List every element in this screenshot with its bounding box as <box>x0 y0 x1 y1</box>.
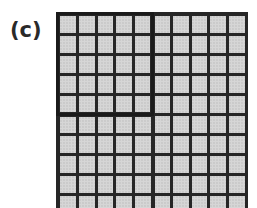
grid-cell <box>98 156 114 173</box>
grid-cell <box>155 16 170 33</box>
grid-cell <box>116 96 132 112</box>
grid-cell <box>135 96 150 112</box>
grid-cell <box>210 36 226 53</box>
grid-cell <box>116 36 132 53</box>
grid-cell <box>60 136 76 153</box>
grid-cell <box>60 117 76 133</box>
grid-cell <box>135 16 150 33</box>
grid-cell <box>229 16 245 33</box>
grid-cell <box>210 116 226 133</box>
grid-cell <box>192 76 208 93</box>
grid-cell <box>229 196 245 208</box>
grid-cell <box>98 36 114 53</box>
grid-cell <box>173 16 189 33</box>
grid-cell <box>192 196 208 208</box>
grid-cell <box>155 56 170 73</box>
grid-cell <box>155 156 170 173</box>
grid-cell <box>173 136 189 153</box>
grid-cell <box>210 156 226 173</box>
grid-cell <box>116 76 132 93</box>
grid-cell <box>155 136 170 153</box>
grid-cell <box>229 56 245 73</box>
grid-cell <box>79 196 95 208</box>
grid-cell <box>229 136 245 153</box>
grid-cell <box>79 117 95 133</box>
grid-cell <box>98 176 114 193</box>
grid-cell <box>79 156 95 173</box>
grid-cell <box>229 176 245 193</box>
grid-cell <box>192 96 208 113</box>
grid-cell <box>229 96 245 113</box>
grid-cell <box>60 176 76 193</box>
grid-cell <box>229 116 245 133</box>
grid-cell <box>79 16 95 33</box>
grid-cell <box>173 36 189 53</box>
grid-cell <box>135 196 151 208</box>
grid-cell <box>98 136 114 153</box>
grid-cell <box>210 96 226 113</box>
grid-cell <box>155 196 170 208</box>
grid-cell <box>98 196 114 208</box>
grid-cell <box>98 96 114 112</box>
grid-cell <box>210 56 226 73</box>
grid-cell <box>116 56 132 73</box>
grid-cell <box>192 56 208 73</box>
grid-cell <box>60 156 76 173</box>
grid-cell <box>135 117 151 133</box>
grid-cell <box>98 56 114 73</box>
grid-cell <box>173 196 189 208</box>
grid-cell <box>60 96 76 112</box>
grid-cell <box>135 136 151 153</box>
grid-cell <box>173 176 189 193</box>
grid-cell <box>155 36 170 53</box>
grid-cell <box>135 56 150 73</box>
grid-cell <box>192 116 208 133</box>
grid-cell <box>116 16 132 33</box>
grid-cell <box>155 76 170 93</box>
grid-cell <box>229 156 245 173</box>
grid-cell <box>60 196 76 208</box>
grid-cell <box>155 96 170 113</box>
grid-cell <box>192 136 208 153</box>
grid-cell <box>135 76 150 93</box>
grid-cell <box>135 176 151 193</box>
grid-cell <box>60 76 76 93</box>
grid-cell <box>116 136 132 153</box>
figure-label: (c) <box>10 18 42 42</box>
grid-cell <box>79 76 95 93</box>
grid-cell <box>192 36 208 53</box>
grid-cell <box>135 156 151 173</box>
grid-cell <box>98 16 114 33</box>
grid-cell <box>210 76 226 93</box>
grid-cell <box>116 156 132 173</box>
grid-cell <box>116 176 132 193</box>
grid-cell <box>155 116 170 133</box>
grid-cell <box>79 136 95 153</box>
grid-cell <box>79 176 95 193</box>
grid-cell <box>173 156 189 173</box>
grid-cell <box>192 16 208 33</box>
grid-cell <box>210 196 226 208</box>
grid-cell <box>60 16 76 33</box>
grid-cell <box>155 176 170 193</box>
grid-cell <box>79 56 95 73</box>
grid-cell <box>229 76 245 93</box>
grid-cell <box>210 16 226 33</box>
grid-cell <box>116 117 132 133</box>
grid-cell <box>192 156 208 173</box>
grid-cell <box>98 117 114 133</box>
grid-cell <box>173 96 189 113</box>
grid-cell <box>229 36 245 53</box>
grid-cell <box>173 76 189 93</box>
grid-cell <box>79 96 95 112</box>
grid-cell <box>135 36 150 53</box>
grid-cell <box>192 176 208 193</box>
grid-cell <box>79 36 95 53</box>
grid-cell <box>173 116 189 133</box>
grid-cell <box>210 176 226 193</box>
grid-cell <box>116 196 132 208</box>
grid-cell <box>60 56 76 73</box>
grid-cell <box>173 56 189 73</box>
grid-cell <box>210 136 226 153</box>
grid-cell <box>60 36 76 53</box>
